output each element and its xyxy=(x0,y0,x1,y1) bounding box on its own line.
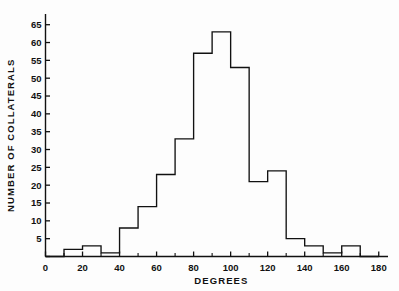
y-tick-label-50: 50 xyxy=(31,73,42,84)
y-tick-label-30: 30 xyxy=(31,144,42,155)
x-tick-label-160: 160 xyxy=(334,262,350,273)
y-tick-label-45: 45 xyxy=(31,90,42,101)
y-tick-label-55: 55 xyxy=(31,55,42,66)
x-tick-label-80: 80 xyxy=(188,262,199,273)
histogram-series xyxy=(46,32,379,257)
x-tick-label-60: 60 xyxy=(151,262,162,273)
y-tick-label-40: 40 xyxy=(31,108,42,119)
histogram-step-outline xyxy=(46,32,379,257)
x-tick-label-120: 120 xyxy=(260,262,276,273)
y-tick-label-5: 5 xyxy=(36,233,42,244)
origin-label-0: 0 xyxy=(43,262,48,273)
y-tick-label-65: 65 xyxy=(31,19,42,30)
x-tick-label-140: 140 xyxy=(297,262,313,273)
x-axis-group: 20406080100120140160180 DEGREES xyxy=(46,252,389,286)
x-tick-label-180: 180 xyxy=(371,262,387,273)
y-tick-label-35: 35 xyxy=(31,126,42,137)
y-tick-label-25: 25 xyxy=(31,162,42,173)
x-axis-title: DEGREES xyxy=(194,275,248,286)
histogram-figure: 51015202530354045505560650 NUMBER OF COL… xyxy=(0,0,399,291)
y-tick-label-60: 60 xyxy=(31,37,42,48)
y-axis-title: NUMBER OF COLLATERALS xyxy=(5,59,16,212)
y-axis-group: 51015202530354045505560650 NUMBER OF COL… xyxy=(5,14,50,273)
histogram-plot: 51015202530354045505560650 NUMBER OF COL… xyxy=(0,0,399,291)
y-tick-label-10: 10 xyxy=(31,215,42,226)
x-axis-tick-labels: 20406080100120140160180 xyxy=(77,262,386,273)
x-tick-label-20: 20 xyxy=(77,262,88,273)
x-tick-label-40: 40 xyxy=(114,262,125,273)
y-tick-label-20: 20 xyxy=(31,180,42,191)
x-axis-ticks xyxy=(46,252,379,257)
y-tick-label-15: 15 xyxy=(31,197,42,208)
x-tick-label-100: 100 xyxy=(223,262,239,273)
